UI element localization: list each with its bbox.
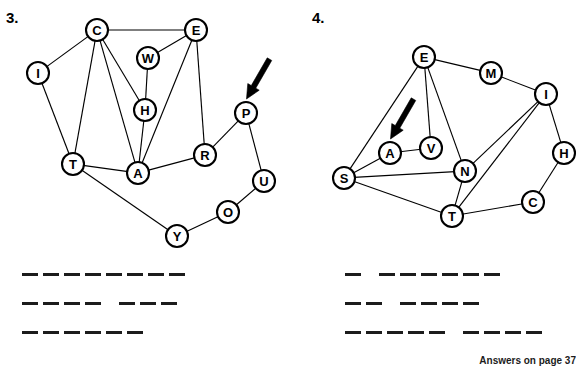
- answer-row[interactable]: [291, 320, 582, 349]
- node-label: P: [242, 106, 251, 121]
- answer-blank[interactable]: [421, 302, 437, 305]
- answer-blank[interactable]: [148, 273, 164, 276]
- answer-word[interactable]: [379, 262, 505, 280]
- graph-node-r[interactable]: R: [194, 144, 216, 166]
- arrow-icon: [247, 58, 272, 99]
- graph-edge: [83, 165, 128, 171]
- graph-node-t[interactable]: T: [62, 153, 84, 175]
- answer-blank[interactable]: [127, 273, 143, 276]
- answer-blank[interactable]: [379, 273, 395, 276]
- problem-3-answer-lines[interactable]: [0, 262, 291, 349]
- graph-node-a[interactable]: A: [127, 162, 149, 184]
- answer-blank[interactable]: [43, 302, 59, 305]
- answer-blank[interactable]: [345, 302, 361, 305]
- node-label: C: [92, 23, 102, 38]
- answer-blank[interactable]: [43, 331, 59, 334]
- graph-node-u[interactable]: U: [253, 170, 275, 192]
- graph-edge: [472, 101, 539, 164]
- answer-blank[interactable]: [526, 331, 542, 334]
- graph-node-n[interactable]: N: [454, 160, 476, 182]
- graph-node-t[interactable]: T: [441, 205, 463, 227]
- answer-word[interactable]: [119, 291, 182, 309]
- answer-blank[interactable]: [22, 302, 38, 305]
- answer-blank[interactable]: [400, 302, 416, 305]
- answer-blank[interactable]: [127, 331, 143, 334]
- answer-blank[interactable]: [505, 331, 521, 334]
- answer-blank[interactable]: [43, 273, 59, 276]
- node-label: V: [427, 141, 436, 156]
- graph-node-h[interactable]: H: [553, 142, 575, 164]
- graph-node-o[interactable]: O: [217, 201, 239, 223]
- answer-blank[interactable]: [463, 273, 479, 276]
- graph-node-s[interactable]: S: [333, 167, 355, 189]
- graph-node-c[interactable]: C: [522, 191, 544, 213]
- graph-edge: [157, 35, 188, 53]
- graph-edge: [75, 40, 95, 154]
- answer-blank[interactable]: [119, 302, 135, 305]
- graph-node-c[interactable]: C: [86, 19, 108, 41]
- answer-row[interactable]: [0, 320, 291, 349]
- answer-blank[interactable]: [106, 331, 122, 334]
- graph-node-v[interactable]: V: [420, 137, 442, 159]
- answer-blank[interactable]: [387, 331, 403, 334]
- answer-blank[interactable]: [484, 273, 500, 276]
- graph-edge: [100, 40, 135, 164]
- graph-edge: [236, 188, 257, 206]
- answer-row[interactable]: [291, 262, 582, 291]
- answer-blank[interactable]: [345, 273, 361, 276]
- node-label: M: [486, 66, 497, 81]
- answer-blank[interactable]: [64, 273, 80, 276]
- graph-node-y[interactable]: Y: [166, 225, 188, 247]
- graph-edge: [400, 149, 421, 152]
- graph-node-h[interactable]: H: [134, 99, 156, 121]
- answer-blank[interactable]: [22, 273, 38, 276]
- graph-node-m[interactable]: M: [480, 62, 502, 84]
- answer-blank[interactable]: [64, 331, 80, 334]
- problem-4-answer-lines[interactable]: [291, 262, 582, 349]
- answer-blank[interactable]: [140, 302, 156, 305]
- answer-blank[interactable]: [366, 302, 382, 305]
- answer-blank[interactable]: [106, 273, 122, 276]
- answer-row[interactable]: [0, 262, 291, 291]
- answer-blank[interactable]: [442, 273, 458, 276]
- answer-word[interactable]: [400, 291, 484, 309]
- answer-word[interactable]: [22, 320, 148, 338]
- answer-blank[interactable]: [85, 331, 101, 334]
- answer-word[interactable]: [345, 262, 366, 280]
- answer-word[interactable]: [22, 291, 106, 309]
- graph-node-a[interactable]: A: [379, 142, 401, 164]
- answer-word[interactable]: [345, 320, 450, 338]
- graph-edge: [462, 204, 523, 215]
- answer-blank[interactable]: [400, 273, 416, 276]
- answer-word[interactable]: [22, 262, 190, 280]
- answer-blank[interactable]: [429, 331, 445, 334]
- answer-blank[interactable]: [161, 302, 177, 305]
- answer-blank[interactable]: [463, 331, 479, 334]
- graph-node-p[interactable]: P: [235, 102, 257, 124]
- answer-blank[interactable]: [64, 302, 80, 305]
- graph-edge: [212, 120, 239, 148]
- answer-blank[interactable]: [484, 331, 500, 334]
- graph-node-w[interactable]: W: [137, 47, 159, 69]
- answer-row[interactable]: [0, 291, 291, 320]
- answer-blank[interactable]: [169, 273, 185, 276]
- answer-blank[interactable]: [85, 302, 101, 305]
- answer-word[interactable]: [345, 291, 387, 309]
- answer-blank[interactable]: [463, 302, 479, 305]
- graph-node-e[interactable]: E: [413, 46, 435, 68]
- answer-blank[interactable]: [22, 331, 38, 334]
- answer-row[interactable]: [291, 291, 582, 320]
- answer-blank[interactable]: [85, 273, 101, 276]
- problem-3: 3. CEIWHPRTAUOY: [0, 0, 291, 361]
- problem-3-graph: CEIWHPRTAUOY: [0, 0, 291, 261]
- node-label: N: [460, 164, 469, 179]
- graph-node-i[interactable]: I: [535, 83, 557, 105]
- answer-blank[interactable]: [408, 331, 424, 334]
- answer-blank[interactable]: [421, 273, 437, 276]
- answer-blank[interactable]: [442, 302, 458, 305]
- answer-blank[interactable]: [345, 331, 361, 334]
- answer-word[interactable]: [463, 320, 547, 338]
- graph-node-i[interactable]: I: [27, 62, 49, 84]
- answer-blank[interactable]: [366, 331, 382, 334]
- graph-node-e[interactable]: E: [185, 19, 207, 41]
